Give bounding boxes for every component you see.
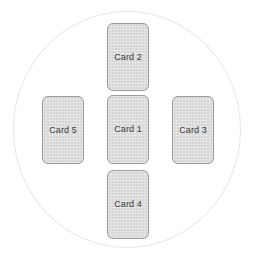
card-bottom-label: Card 4 (114, 200, 142, 209)
card-top[interactable]: Card 2 (107, 23, 149, 91)
card-left[interactable]: Card 5 (42, 96, 84, 164)
card-right[interactable]: Card 3 (172, 96, 214, 164)
card-center-label: Card 1 (114, 125, 142, 134)
card-layout-canvas: Card 2 Card 5 Card 1 Card 3 Card 4 (0, 0, 254, 259)
card-right-label: Card 3 (179, 126, 207, 135)
card-bottom[interactable]: Card 4 (107, 170, 149, 239)
card-left-label: Card 5 (49, 126, 77, 135)
card-top-label: Card 2 (114, 53, 142, 62)
card-center[interactable]: Card 1 (107, 95, 149, 164)
